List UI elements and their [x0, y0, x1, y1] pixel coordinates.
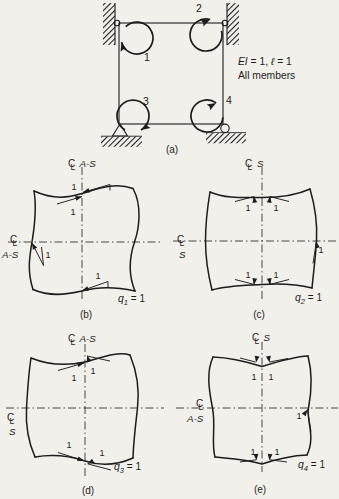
centerline-icon: [252, 332, 260, 346]
top-axis-label: S: [252, 332, 271, 346]
deformed-shape: [29, 186, 139, 295]
slope-marker: 1: [267, 196, 289, 213]
centerline-icon: [7, 412, 15, 426]
ei-note-line2: All members: [238, 70, 295, 81]
slope-label: 1: [273, 270, 278, 280]
slope-label: 1: [70, 207, 75, 217]
slope-label: 1: [245, 270, 250, 280]
figure-d-caption: (d): [82, 485, 94, 496]
slope-marker: 1: [71, 182, 110, 195]
slope-label: 1: [250, 447, 255, 457]
slope-label: 1: [66, 440, 71, 450]
centerline-icon: [196, 398, 204, 412]
moment-arrow-2: [190, 16, 222, 51]
slope-marker: 1: [267, 270, 289, 286]
roller-support-icon: [206, 124, 246, 143]
slope-label: 1: [245, 203, 250, 213]
moment-arrow-4: [191, 100, 223, 132]
moment-arrow-1: [118, 22, 153, 54]
slope-label: 1: [71, 373, 76, 383]
slope-marker: 1: [30, 242, 51, 266]
pin-support-icon: [101, 124, 142, 147]
slope-marker: 1: [58, 440, 85, 463]
figure-e-caption: (e): [254, 484, 266, 495]
moment-label-3: 3: [143, 95, 149, 107]
svg-text:A-S: A-S: [186, 413, 204, 424]
centerline-icon: [245, 158, 253, 172]
deformed-shape: [26, 354, 138, 464]
deformed-shape: [206, 189, 317, 290]
figure-c-mode-shape: 1 1 1 1 1 S: [170, 155, 339, 326]
left-axis-label: A-S: [1, 234, 19, 260]
slope-label: 1: [251, 372, 256, 382]
slope-label: 1: [90, 366, 95, 376]
figure-d-mode-shape: 1 1 1 1 A-S S q3 = 1 (d): [0, 326, 170, 499]
figure-b-caption: (b): [80, 309, 92, 320]
slope-marker: 1: [81, 271, 108, 293]
left-axis-label: S: [177, 234, 186, 260]
svg-text:S: S: [264, 332, 271, 343]
figure-b-mode-shape: 1 1 1 1 A-S A-S q1 = 1 (b): [0, 155, 170, 326]
slope-marker: 1: [86, 448, 111, 470]
wall-support-right: [227, 3, 239, 45]
svg-text:A-S: A-S: [1, 249, 19, 260]
q-label: q3 = 1: [114, 460, 141, 475]
q-label: q4 = 1: [298, 458, 325, 473]
centerline-icon: [68, 333, 76, 347]
svg-text:A-S: A-S: [79, 333, 97, 344]
top-axis-label: S: [245, 158, 264, 172]
figure-a-caption: (a): [166, 144, 178, 155]
svg-text:A-S: A-S: [79, 158, 97, 169]
left-axis-label: S: [7, 412, 16, 437]
svg-text:S: S: [179, 249, 186, 260]
moment-label-2: 2: [196, 2, 202, 14]
figure-a-frame-diagram: C L: [0, 0, 339, 155]
slope-label: 1: [71, 182, 76, 192]
figure-e-mode-shape: 1 1 1 1 1 S A-S q4 = 1: [170, 326, 339, 499]
slope-marker: 1: [235, 196, 257, 213]
slope-marker: 1: [235, 270, 257, 286]
slope-label: 1: [45, 250, 50, 260]
wall-support-left: [103, 3, 115, 45]
frame-members: [119, 23, 223, 124]
q-label: q2 = 1: [295, 291, 322, 306]
svg-text:S: S: [9, 426, 16, 437]
centerline-icon: [177, 234, 185, 248]
slope-label: 1: [268, 372, 273, 382]
figure-c-caption: (c): [253, 309, 265, 320]
left-axis-label: A-S: [186, 398, 204, 424]
deformed-shape: [209, 356, 311, 464]
top-axis-label: A-S: [68, 333, 96, 347]
q-label: q1 = 1: [118, 292, 145, 307]
slope-label: 1: [318, 245, 323, 255]
centerline-icon: [10, 234, 18, 248]
moment-label-1: 1: [144, 51, 150, 63]
slope-label: 1: [95, 271, 100, 281]
slope-marker: 1: [240, 356, 259, 382]
moment-label-4: 4: [226, 94, 232, 106]
slope-label: 1: [273, 203, 278, 213]
svg-text:S: S: [257, 158, 264, 169]
slope-label: 1: [296, 411, 301, 421]
textbook-figure-page: C L: [0, 0, 339, 499]
slope-label: 1: [99, 448, 104, 458]
slope-marker: 1: [85, 355, 110, 376]
slope-label: 1: [274, 447, 279, 457]
centerline-icon: [68, 158, 76, 172]
ei-note-line1: EI = 1, ℓ = 1: [238, 56, 292, 67]
